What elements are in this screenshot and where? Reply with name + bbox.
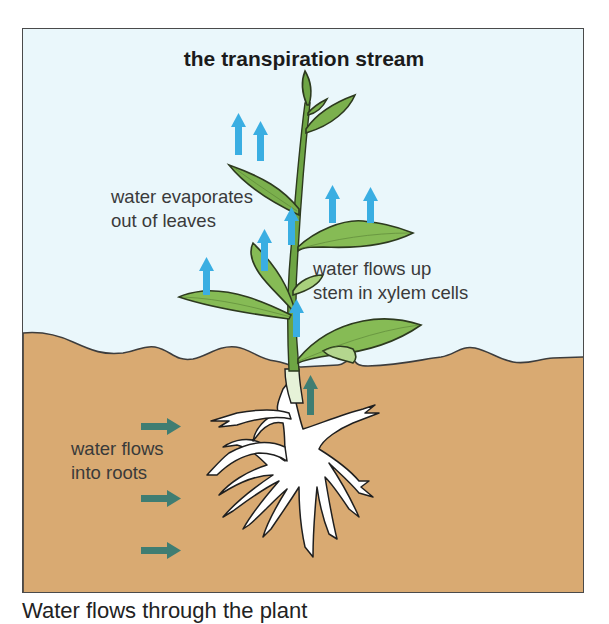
label-evaporation: water evaporates out of leaves — [111, 185, 253, 233]
label-evaporation-line2: out of leaves — [111, 209, 253, 233]
label-evaporation-line1: water evaporates — [111, 185, 253, 209]
leaf-mid-right — [298, 221, 413, 251]
label-xylem-line2: stem in xylem cells — [313, 281, 468, 305]
diagram-title: the transpiration stream — [23, 47, 584, 71]
leaf-lower-small — [323, 346, 356, 363]
label-roots-line1: water flows — [71, 437, 164, 461]
diagram-frame: the transpiration stream water evaporate… — [22, 28, 584, 593]
vapour-arrow-up-icon — [325, 185, 340, 223]
vapour-arrow-up-icon — [253, 121, 268, 161]
vapour-arrow-up-icon — [231, 113, 246, 155]
label-xylem: water flows up stem in xylem cells — [313, 257, 468, 305]
label-roots-line2: into roots — [71, 461, 164, 485]
figure-caption: Water flows through the plant — [22, 598, 307, 624]
transpiration-illustration — [23, 29, 584, 593]
leaf-left-long — [179, 291, 291, 319]
vapour-arrow-up-icon — [363, 187, 378, 223]
leaf-lower-right — [298, 319, 421, 363]
label-roots: water flows into roots — [71, 437, 164, 485]
label-xylem-line1: water flows up — [313, 257, 468, 281]
vapour-arrow-up-icon — [199, 257, 214, 295]
leaf-top-bud — [302, 71, 311, 105]
